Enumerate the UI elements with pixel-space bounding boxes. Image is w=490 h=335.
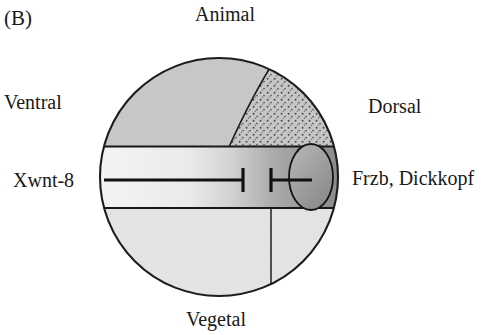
spemann-organizer-ellipse — [289, 144, 333, 210]
signal-label-frzb-dickkopf: Frzb, Dickkopf — [352, 168, 474, 188]
panel-letter: (B) — [4, 8, 32, 29]
axis-label-animal: Animal — [195, 4, 255, 24]
signal-label-xwnt8: Xwnt-8 — [13, 170, 74, 190]
figure-panel-b: (B) Animal Ventral Dorsal Xwnt-8 Frzb, D… — [0, 0, 490, 335]
axis-label-vegetal: Vegetal — [186, 309, 246, 329]
axis-label-ventral: Ventral — [4, 92, 62, 112]
axis-label-dorsal: Dorsal — [368, 96, 421, 116]
